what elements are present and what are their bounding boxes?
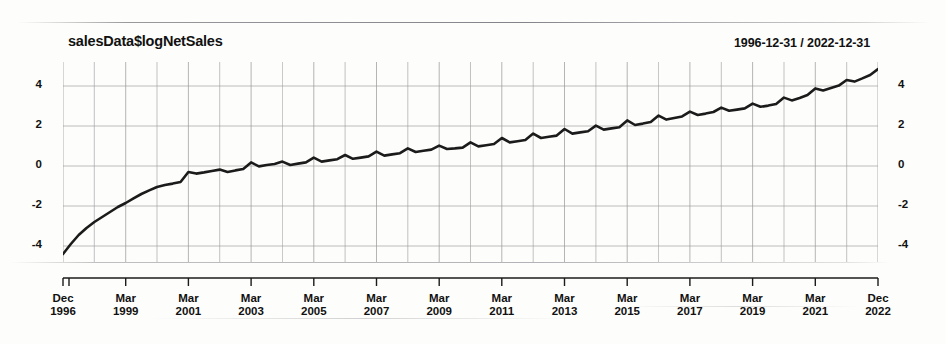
x-tick-year: 2013 [537,305,593,318]
x-tick-month: Mar [349,292,405,305]
y-tick-label-left: -4 [18,238,42,250]
x-tick-label: Mar2019 [725,292,781,318]
x-tick-label: Mar2017 [662,292,718,318]
y-tick-label-right: 2 [898,118,922,130]
chart-canvas [63,62,878,262]
x-tick-label: Dec2022 [850,292,906,318]
scan-artifact-line-top [18,22,930,23]
y-tick-label-left: 4 [18,78,42,90]
scan-noise-b [620,306,860,307]
x-tick-label: Mar2015 [599,292,655,318]
x-tick-label: Mar2001 [160,292,216,318]
x-tick-year: 2005 [286,305,342,318]
y-tick-label-left: 2 [18,118,42,130]
y-tick-label-right: -2 [898,198,922,210]
x-tick-year: 1999 [98,305,154,318]
x-tick-month: Mar [223,292,279,305]
x-axis-ticks [0,277,946,291]
x-tick-label: Mar2009 [411,292,467,318]
x-tick-year: 2007 [349,305,405,318]
x-tick-month: Mar [160,292,216,305]
x-tick-month: Dec [35,292,91,305]
x-tick-label: Mar2011 [474,292,530,318]
x-tick-label: Mar2021 [787,292,843,318]
plot-area [63,62,878,262]
x-tick-month: Mar [98,292,154,305]
scan-noise-a [150,318,570,319]
x-tick-year: 2001 [160,305,216,318]
x-tick-month: Mar [411,292,467,305]
x-tick-label: Mar1999 [98,292,154,318]
x-tick-month: Dec [850,292,906,305]
y-tick-label-right: 0 [898,158,922,170]
x-tick-label: Mar2007 [349,292,405,318]
scan-artifact-line-bottom [10,262,890,263]
y-tick-label-left: -2 [18,198,42,210]
x-tick-month: Mar [599,292,655,305]
x-tick-label: Mar2013 [537,292,593,318]
x-tick-year: 2003 [223,305,279,318]
x-tick-month: Mar [537,292,593,305]
y-tick-label-right: -4 [898,238,922,250]
x-tick-month: Mar [725,292,781,305]
page-title: salesData$logNetSales [68,33,223,49]
x-tick-year: 1996 [35,305,91,318]
x-tick-year: 2011 [474,305,530,318]
y-tick-label-right: 4 [898,78,922,90]
x-tick-month: Mar [787,292,843,305]
x-tick-label: Mar2003 [223,292,279,318]
x-tick-month: Mar [474,292,530,305]
x-tick-label: Dec1996 [35,292,91,318]
date-range-label: 1996-12-31 / 2022-12-31 [734,36,870,50]
vertical-gridlines [63,62,878,262]
x-tick-year: 2009 [411,305,467,318]
x-tick-month: Mar [286,292,342,305]
y-tick-label-left: 0 [18,158,42,170]
x-tick-label: Mar2005 [286,292,342,318]
x-tick-month: Mar [662,292,718,305]
